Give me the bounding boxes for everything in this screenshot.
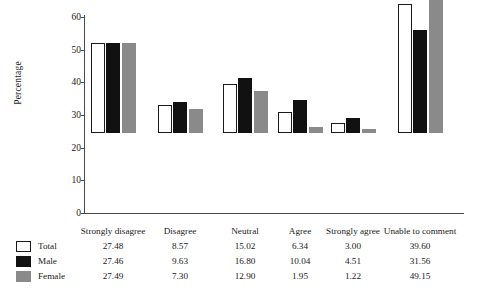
bar: [91, 43, 105, 133]
bar: [158, 105, 172, 133]
x-axis-label-unable-to-comment: Unable to comment: [360, 226, 478, 237]
y-axis-tick-0: 0: [55, 208, 81, 218]
legend-label: Female: [38, 271, 65, 282]
y-axis-tick-40: 40: [55, 77, 81, 87]
bar: [331, 123, 345, 133]
y-axis-tick-50: 50: [55, 45, 81, 55]
bar: [309, 127, 323, 133]
y-axis-tick-20: 20: [55, 143, 81, 153]
y-axis-tick-mark: [81, 148, 85, 149]
bar-group: [91, 0, 136, 133]
legend-label: Male: [38, 256, 57, 267]
bar: [413, 30, 427, 133]
legend-swatch-icon: [16, 241, 31, 252]
bar-chart-figure: Percentage 0102030405060 Strongly disagr…: [0, 0, 478, 303]
bar: [362, 129, 376, 133]
bar: [238, 78, 252, 133]
bar: [122, 43, 136, 133]
bar: [189, 109, 203, 133]
bar: [293, 100, 307, 133]
y-axis-tick-mark: [81, 82, 85, 83]
legend-label: Total: [38, 241, 57, 252]
bar: [173, 102, 187, 133]
legend-swatch-icon: [16, 271, 31, 282]
value-cell: 49.15: [380, 271, 460, 282]
bar-group: [278, 0, 323, 133]
y-axis-tick-mark: [81, 50, 85, 51]
y-axis-tick-10: 10: [55, 175, 81, 185]
y-axis-tick-30: 30: [55, 110, 81, 120]
bar: [429, 0, 443, 133]
plot-area: Percentage 0102030405060 Strongly disagr…: [0, 0, 478, 222]
bar: [278, 112, 292, 133]
y-axis-tick-mark: [81, 213, 85, 214]
bar: [346, 118, 360, 133]
y-axis-tick-mark: [81, 115, 85, 116]
bar: [106, 43, 120, 133]
bar-group: [223, 0, 268, 133]
y-axis-title: Percentage: [13, 43, 23, 123]
y-axis-tick-60: 60: [55, 12, 81, 22]
bar-group: [331, 0, 376, 133]
bar: [223, 84, 237, 133]
bar-group: [158, 0, 203, 133]
value-cell: 31.56: [380, 256, 460, 267]
legend-swatch-icon: [16, 256, 31, 267]
bar-group: [398, 0, 443, 133]
bar: [254, 91, 268, 133]
value-cell: 39.60: [380, 241, 460, 252]
x-axis-line: [84, 213, 464, 214]
y-axis-tick-mark: [81, 180, 85, 181]
bar: [398, 4, 412, 133]
y-axis-tick-mark: [81, 17, 85, 18]
